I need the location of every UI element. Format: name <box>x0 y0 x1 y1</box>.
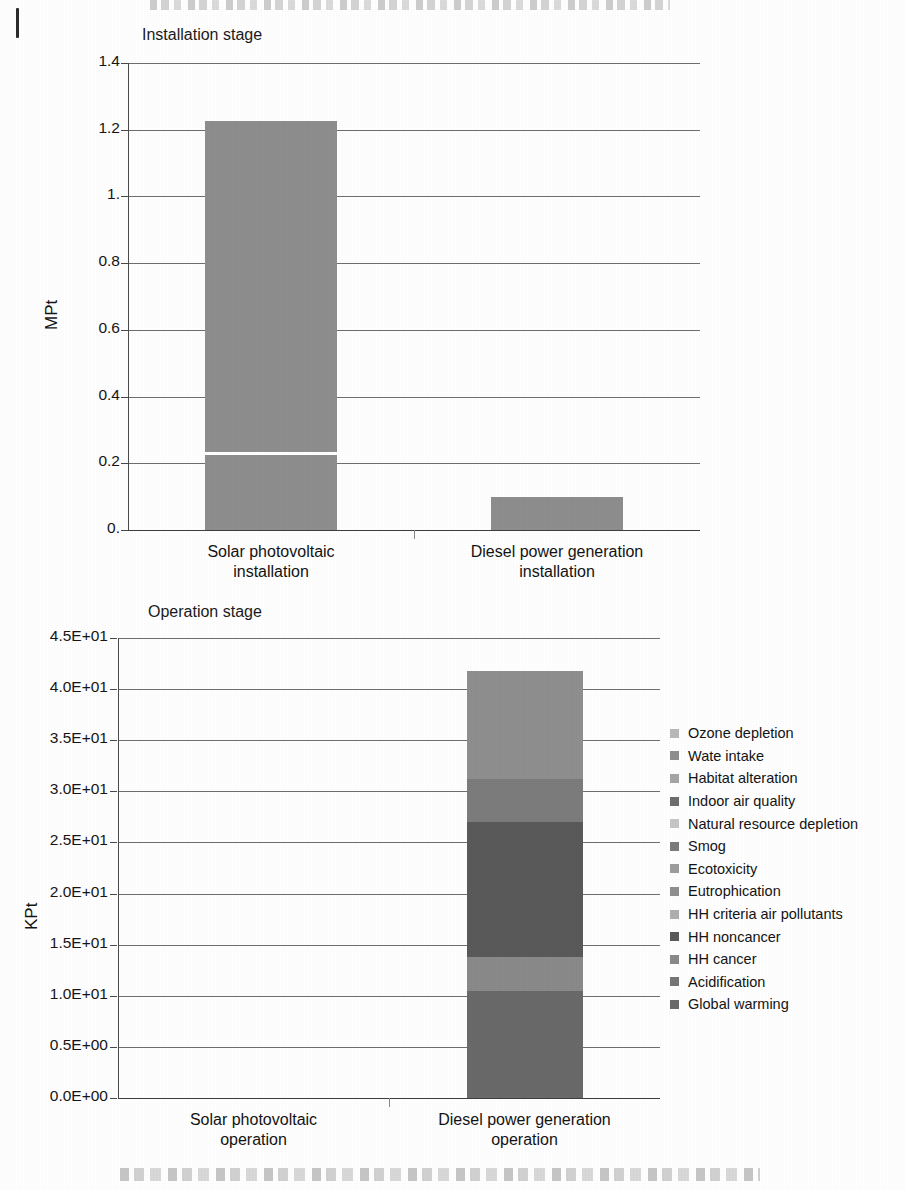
operation-y-tick-label: 2.0E+01 <box>6 883 108 901</box>
operation-bar-segment <box>467 671 583 779</box>
legend-item-label: Natural resource depletion <box>688 816 858 832</box>
operation-y-axis-label: KPt <box>22 903 42 930</box>
legend-item[interactable]: Ecotoxicity <box>670 858 900 881</box>
legend-item[interactable]: Smog <box>670 835 900 858</box>
legend-item-label: Global warming <box>688 996 789 1012</box>
operation-y-tick-label: 2.5E+01 <box>6 831 108 849</box>
operation-y-tick <box>110 842 117 843</box>
legend-item[interactable]: HH noncancer <box>670 925 900 948</box>
legend-item[interactable]: HH criteria air pollutants <box>670 903 900 926</box>
operation-y-tick-label: 4.0E+01 <box>6 678 108 696</box>
legend-item-label: HH criteria air pollutants <box>688 906 843 922</box>
legend-swatch-icon <box>670 797 679 806</box>
legend-item-label: Wate intake <box>688 748 764 764</box>
legend-swatch-icon <box>670 819 679 828</box>
legend-swatch-icon <box>670 774 679 783</box>
legend-item-label: Ecotoxicity <box>688 861 757 877</box>
legend-item[interactable]: Wate intake <box>670 745 900 768</box>
operation-y-tick-label: 1.0E+01 <box>6 985 108 1003</box>
operation-y-tick-label: 0.0E+00 <box>6 1087 108 1105</box>
legend-item[interactable]: Ozone depletion <box>670 722 900 745</box>
legend-item[interactable]: Acidification <box>670 971 900 994</box>
legend-item-label: Acidification <box>688 974 765 990</box>
legend-swatch-icon <box>670 910 679 919</box>
legend-swatch-icon <box>670 864 679 873</box>
legend-item[interactable]: Natural resource depletion <box>670 812 900 835</box>
operation-bar-segment <box>467 779 583 822</box>
legend-swatch-icon <box>670 729 679 738</box>
legend-item-label: Ozone depletion <box>688 725 794 741</box>
page-footer-scan-artifact <box>120 1168 760 1181</box>
legend-item-label: Habitat alteration <box>688 770 798 786</box>
category-label-line-1: Solar photovoltaic <box>114 1110 394 1130</box>
operation-y-axis <box>118 638 119 1098</box>
operation-y-tick <box>110 894 117 895</box>
operation-bar-diesel-power-generation <box>467 671 583 1098</box>
legend-item[interactable]: Eutrophication <box>670 880 900 903</box>
operation-y-tick-label: 3.5E+01 <box>6 729 108 747</box>
legend-swatch-icon <box>670 932 679 941</box>
operation-y-tick-label: 1.5E+01 <box>6 934 108 952</box>
operation-y-tick <box>110 689 117 690</box>
legend-swatch-icon <box>670 977 679 986</box>
operation-gridline <box>118 638 660 639</box>
scanned-page: Installation stage MPt 0.0.20.40.60.81.1… <box>0 0 906 1190</box>
legend-swatch-icon <box>670 842 679 851</box>
operation-bar-segment <box>467 822 583 957</box>
legend-swatch-icon <box>670 955 679 964</box>
legend-item-label: Eutrophication <box>688 883 781 899</box>
operation-y-tick-label: 0.5E+00 <box>6 1036 108 1054</box>
operation-y-tick <box>110 1047 117 1048</box>
legend-item[interactable]: Habitat alteration <box>670 767 900 790</box>
legend-swatch-icon <box>670 751 679 760</box>
legend-item-label: Smog <box>688 838 726 854</box>
operation-y-tick <box>110 740 117 741</box>
operation-y-tick-label: 4.5E+01 <box>6 627 108 645</box>
legend-item-label: Indoor air quality <box>688 793 795 809</box>
legend-item-label: HH cancer <box>688 951 757 967</box>
operation-y-tick <box>110 945 117 946</box>
operation-y-tick <box>110 791 117 792</box>
legend-item[interactable]: Indoor air quality <box>670 790 900 813</box>
operation-bar-segment <box>467 991 583 1098</box>
operation-bar-segment <box>467 957 583 991</box>
operation-chart-title: Operation stage <box>148 603 262 621</box>
operation-chart-legend: Ozone depletionWate intakeHabitat altera… <box>670 722 900 1016</box>
legend-swatch-icon <box>670 1000 679 1009</box>
operation-y-tick <box>110 1098 117 1099</box>
operation-category-label-solar-photovoltaic-operation: Solar photovoltaicoperation <box>114 1110 394 1149</box>
operation-y-tick-label: 3.0E+01 <box>6 780 108 798</box>
category-label-line-2: operation <box>114 1130 394 1150</box>
legend-item[interactable]: Global warming <box>670 993 900 1016</box>
category-label-line-1: Diesel power generation <box>385 1110 665 1130</box>
operation-y-tick <box>110 638 117 639</box>
operation-category-tick <box>389 1098 390 1107</box>
legend-item-label: HH noncancer <box>688 929 781 945</box>
category-label-line-2: operation <box>385 1130 665 1150</box>
operation-category-label-diesel-power-generation-operation: Diesel power generationoperation <box>385 1110 665 1149</box>
legend-item[interactable]: HH cancer <box>670 948 900 971</box>
operation-y-tick <box>110 996 117 997</box>
legend-swatch-icon <box>670 887 679 896</box>
